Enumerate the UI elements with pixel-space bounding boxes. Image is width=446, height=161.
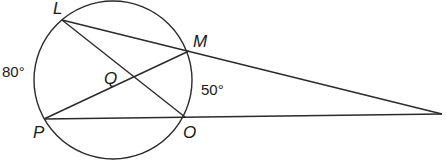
arc-label-80: 80° (2, 63, 25, 80)
secant-P-external (44, 114, 442, 119)
geometry-diagram: L M Q P O 80° 50° (0, 0, 446, 161)
point-label-Q: Q (104, 69, 117, 88)
point-label-O: O (183, 123, 196, 142)
point-label-L: L (53, 0, 62, 18)
point-label-P: P (33, 123, 45, 142)
secant-L-external (62, 20, 442, 114)
arc-label-50: 50° (201, 81, 224, 98)
point-label-M: M (193, 32, 208, 51)
